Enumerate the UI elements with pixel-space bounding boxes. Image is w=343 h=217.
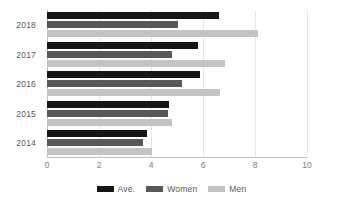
bar-group-2014	[47, 130, 307, 155]
category-label-2015: 2015	[0, 109, 36, 119]
legend-item-women[interactable]: Women	[146, 184, 197, 194]
category-label-2014: 2014	[0, 138, 36, 148]
x-tick-label: 8	[243, 160, 267, 170]
bar-group-2016	[47, 71, 307, 96]
bar-women-2014	[47, 139, 143, 146]
legend-item-ave[interactable]: Ave.	[97, 184, 136, 194]
bar-chart: 20182017201620152014 0246810 Ave.WomenMe…	[0, 0, 343, 217]
legend-swatch-icon	[146, 186, 163, 192]
x-tick-label: 2	[87, 160, 111, 170]
x-tick-label: 6	[191, 160, 215, 170]
bar-women-2017	[47, 51, 172, 58]
category-label-2017: 2017	[0, 50, 36, 60]
bar-group-2015	[47, 101, 307, 126]
bar-men-2017	[47, 60, 225, 67]
legend-label: Ave.	[118, 184, 136, 194]
bar-ave-2017	[47, 42, 198, 49]
bar-group-2017	[47, 42, 307, 67]
bar-women-2016	[47, 80, 182, 87]
legend-label: Women	[167, 184, 197, 194]
chart-legend: Ave.WomenMen	[0, 184, 343, 194]
bar-group-2018	[47, 12, 307, 37]
bar-ave-2018	[47, 12, 219, 19]
x-axis-line	[47, 157, 307, 158]
bar-ave-2014	[47, 130, 147, 137]
x-tick-label: 10	[295, 160, 319, 170]
category-label-2016: 2016	[0, 79, 36, 89]
plot-area	[47, 10, 307, 158]
bar-women-2015	[47, 110, 168, 117]
bar-women-2018	[47, 21, 178, 28]
bar-men-2016	[47, 89, 220, 96]
gridline-x-10	[307, 10, 308, 158]
bar-men-2018	[47, 30, 258, 37]
x-tick-label: 4	[139, 160, 163, 170]
bar-ave-2015	[47, 101, 169, 108]
legend-swatch-icon	[97, 186, 114, 192]
category-label-2018: 2018	[0, 20, 36, 30]
legend-item-men[interactable]: Men	[208, 184, 246, 194]
bar-ave-2016	[47, 71, 200, 78]
bar-men-2014	[47, 148, 152, 155]
bar-men-2015	[47, 119, 172, 126]
legend-label: Men	[229, 184, 246, 194]
x-tick-label: 0	[35, 160, 59, 170]
legend-swatch-icon	[208, 186, 225, 192]
